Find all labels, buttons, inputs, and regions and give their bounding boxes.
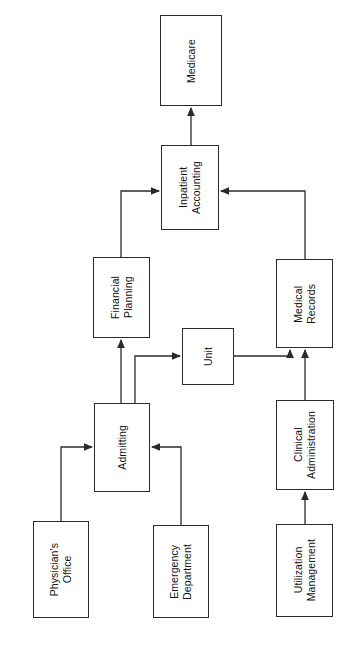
node-utilization-management[interactable]: Utilization Management: [276, 524, 333, 617]
node-label-financial-planning: Financial Planning: [109, 276, 135, 319]
node-label-clinical-administration: Clinical Administration: [292, 411, 318, 479]
node-unit[interactable]: Unit: [182, 328, 234, 385]
node-label-emergency-department: Emergency Department: [168, 544, 194, 600]
node-label-physicians-office: Physician's Office: [48, 543, 74, 596]
node-admitting[interactable]: Admitting: [94, 403, 150, 492]
node-clinical-administration[interactable]: Clinical Administration: [276, 400, 334, 490]
node-inpatient-accounting[interactable]: Inpatient Accounting: [161, 145, 219, 230]
node-label-medical-records: Medical Records: [292, 284, 318, 324]
node-label-admitting: Admitting: [116, 425, 129, 470]
edge-unit-to-medical-records: [234, 350, 290, 356]
flowchart-diagram: MedicareInpatient AccountingFinancial Pl…: [0, 0, 354, 664]
node-physicians-office[interactable]: Physician's Office: [33, 521, 89, 618]
node-label-medicare: Medicare: [185, 39, 198, 83]
edge-physicians-office-to-admitting: [61, 447, 92, 521]
edge-emergency-department-to-admitting: [152, 447, 181, 525]
node-medical-records[interactable]: Medical Records: [276, 259, 333, 348]
node-financial-planning[interactable]: Financial Planning: [93, 257, 150, 338]
edge-financial-planning-to-inpatient-accounting: [121, 191, 159, 257]
node-medicare[interactable]: Medicare: [160, 15, 222, 106]
node-label-utilization-management: Utilization Management: [292, 539, 318, 601]
node-label-inpatient-accounting: Inpatient Accounting: [177, 161, 203, 214]
node-label-unit: Unit: [202, 347, 215, 366]
edge-medical-records-to-inpatient-accounting: [221, 191, 305, 259]
node-emergency-department[interactable]: Emergency Department: [153, 525, 209, 618]
edge-admitting-to-unit: [135, 356, 180, 403]
